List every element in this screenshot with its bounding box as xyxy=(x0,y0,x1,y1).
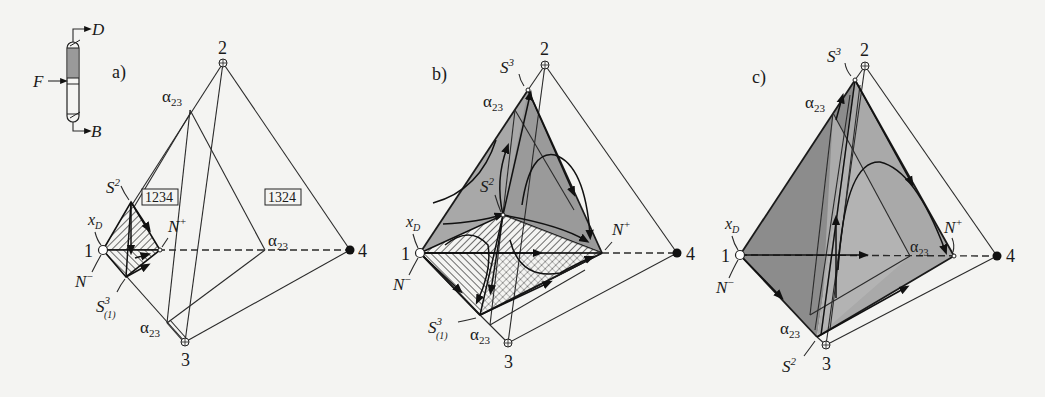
vertex-3-label: 3 xyxy=(181,350,190,370)
vertex-4-label: 4 xyxy=(1006,246,1015,266)
panel-c: c) xyxy=(715,40,1015,376)
panel-b-label: b) xyxy=(432,64,447,85)
s3-1-label: S3(1) xyxy=(96,294,116,321)
distillation-column-icon xyxy=(48,29,88,131)
bottoms-label: B xyxy=(91,122,102,141)
panel-c-label: c) xyxy=(752,67,766,88)
n-plus-label: N+ xyxy=(611,218,631,239)
s3-label: S3 xyxy=(500,56,515,77)
bottoms-arrow-icon xyxy=(73,122,88,131)
alpha23-top-label: α23 xyxy=(805,93,825,114)
region-1234-label: 1234 xyxy=(145,190,173,205)
vertex-4-marker xyxy=(346,246,355,255)
alpha23-bottom-label: α23 xyxy=(140,318,160,339)
distillate-label: D xyxy=(91,20,105,39)
vertex-1-marker xyxy=(736,251,745,260)
vertex-1-marker xyxy=(416,249,425,258)
n-plus-label: N+ xyxy=(167,215,187,236)
vertex-4-label: 4 xyxy=(358,241,367,261)
alpha23-top-label: α23 xyxy=(483,92,503,113)
s3-label: S3 xyxy=(827,45,842,66)
n-plus-label: N+ xyxy=(943,216,963,237)
xd-label: xD xyxy=(724,215,740,235)
xd-label: xD xyxy=(87,211,103,231)
alpha23-mid-label: α23 xyxy=(268,231,288,252)
panel-b: b) xyxy=(392,39,695,372)
vertex-4-label: 4 xyxy=(686,244,695,264)
vertex-4-marker xyxy=(673,249,682,258)
vertex-1-label: 1 xyxy=(84,241,93,261)
n-minus-label: N− xyxy=(74,270,94,291)
distillate-arrow-icon xyxy=(73,29,88,42)
vertex-2-label: 2 xyxy=(860,40,869,60)
vertex-2-label: 2 xyxy=(218,38,227,58)
alpha23-bottom-label: α23 xyxy=(470,325,490,346)
panel-a-label: a) xyxy=(112,62,126,83)
vertex-3-label: 3 xyxy=(504,352,513,372)
vertex-1-marker xyxy=(99,246,108,255)
vertex-2-label: 2 xyxy=(540,39,549,59)
feed-label: F xyxy=(32,72,44,91)
alpha23-bottom-label: α23 xyxy=(780,319,800,340)
vertex-3-label: 3 xyxy=(822,354,831,374)
panel-a: a) 2 3 1 4 xyxy=(74,38,367,370)
xd-label: xD xyxy=(405,213,421,233)
vertex-1-label: 1 xyxy=(721,246,730,266)
n-minus-label: N− xyxy=(715,276,735,297)
s2-label: S2 xyxy=(782,355,797,376)
n-minus-label: N− xyxy=(392,273,412,294)
vertex-4-marker xyxy=(993,252,1002,261)
region-1324-label: 1324 xyxy=(268,190,296,205)
s3-1-label: S3(1) xyxy=(428,315,448,342)
vertex-1-label: 1 xyxy=(401,244,410,264)
distillation-tetrahedra-figure: D B F a) 2 xyxy=(0,0,1045,397)
s2-label: S2 xyxy=(106,176,121,197)
alpha23-top-label: α23 xyxy=(162,87,182,108)
